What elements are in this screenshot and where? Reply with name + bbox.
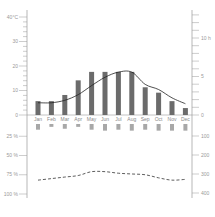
precipitation-bar — [143, 124, 147, 130]
temperature-line — [38, 71, 185, 104]
precipitation-bar — [116, 124, 120, 130]
month-label: Aug — [127, 116, 136, 122]
month-label: Mar — [60, 116, 69, 122]
sunshine-bar — [183, 108, 188, 115]
right-lower-tick-label: 300 — [201, 171, 210, 177]
sunshine-bar — [62, 95, 67, 115]
precipitation-bar — [36, 124, 40, 130]
left-lower-tick-label: 50 % — [7, 152, 19, 158]
month-label: Jul — [115, 116, 121, 122]
precipitation-bar — [157, 124, 161, 131]
left-lower-tick-label: 25 % — [7, 133, 19, 139]
humidity-line — [38, 171, 185, 180]
left-upper-tick-label: 10 — [12, 87, 18, 93]
sunshine-bar — [36, 101, 41, 115]
month-label: Jan — [34, 116, 42, 122]
sunshine-bar — [76, 80, 81, 115]
humidity-line-path — [38, 171, 185, 180]
precipitation-bar — [76, 124, 80, 127]
precipitation-bar — [63, 124, 67, 129]
right-upper-tick-label: 0 — [201, 112, 204, 118]
right-upper-tick-label: 10 h — [201, 35, 211, 41]
sunshine-bar — [156, 93, 161, 115]
left-upper-tick-label: 20 — [12, 63, 18, 69]
precipitation-bar — [103, 124, 107, 131]
sunshine-bar — [89, 72, 94, 115]
right-upper-tick-label: 5 — [201, 73, 204, 79]
right-lower-tick-label: 200 — [201, 152, 210, 158]
left-lower-tick-label: 75 % — [7, 171, 19, 177]
month-label: May — [87, 116, 97, 122]
month-label: Apr — [74, 116, 82, 122]
sunshine-bar — [143, 87, 148, 115]
left-upper-tick-label: 0 — [15, 112, 18, 118]
left-lower-tick-label: 100 % — [4, 191, 19, 197]
left-upper-tick-label: 30 — [12, 38, 18, 44]
climate-chart: 40°C302010010 h5025 %50 %75 %100 %100200… — [0, 0, 215, 217]
month-label: Dec — [181, 116, 190, 122]
sunshine-bar — [170, 101, 175, 115]
month-label: Feb — [47, 116, 56, 122]
left-upper-tick-label: 40°C — [7, 14, 19, 20]
right-lower-tick-label: 400 — [201, 190, 210, 196]
month-label: Sep — [141, 116, 150, 122]
month-label: Oct — [155, 116, 163, 122]
temperature-line-path — [38, 71, 185, 104]
precipitation-bar — [130, 124, 134, 131]
precipitation-bar — [170, 124, 174, 131]
month-label: Jun — [101, 116, 109, 122]
month-label: Nov — [168, 116, 177, 122]
precipitation-bars — [36, 124, 187, 131]
sunshine-bar — [129, 72, 134, 115]
sunshine-bar — [116, 72, 121, 115]
right-lower-tick-label: 100 — [201, 133, 210, 139]
precipitation-bar — [49, 124, 53, 127]
precipitation-bar — [183, 124, 187, 131]
precipitation-bar — [90, 124, 94, 130]
